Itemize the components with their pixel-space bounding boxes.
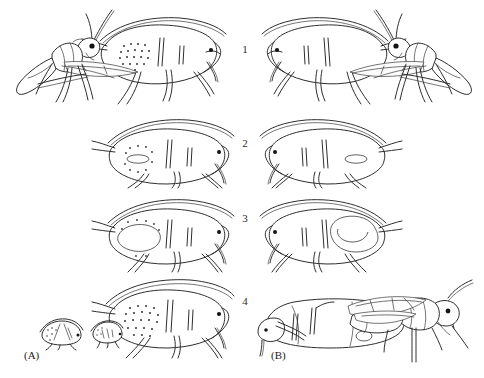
wasp-b4 — [348, 280, 473, 362]
cell-b1 — [252, 6, 480, 108]
caption-cut-off — [300, 369, 484, 378]
small-mummy-right — [90, 318, 124, 348]
aphid-a2 — [92, 120, 234, 188]
aphid-a1 — [73, 18, 226, 104]
aphid-b2 — [260, 120, 402, 188]
row-number-4: 4 — [238, 296, 252, 307]
larva-patch-a3 — [118, 224, 161, 251]
panel-b: (B) — [242, 0, 484, 378]
cell-a3 — [92, 196, 234, 272]
aphid-a3 — [92, 200, 234, 272]
aphid-b1 — [262, 18, 406, 104]
panel-label-a: (A) — [24, 350, 39, 361]
aphid-b3 — [260, 200, 402, 272]
row-number-2: 2 — [238, 138, 252, 149]
cell-b2 — [260, 116, 402, 188]
small-mummy-left — [38, 316, 84, 350]
row-number-1: 1 — [238, 44, 252, 55]
row-number-3: 3 — [238, 213, 252, 224]
figure-canvas: (A) — [0, 0, 484, 378]
panel-a: (A) — [0, 0, 242, 378]
cell-a2 — [92, 116, 234, 188]
cell-b3 — [260, 196, 402, 272]
cell-a1 — [8, 6, 236, 108]
egg-oval-b2 — [345, 155, 367, 163]
egg-oval-a2 — [127, 155, 149, 163]
panel-label-b: (B) — [271, 350, 286, 361]
